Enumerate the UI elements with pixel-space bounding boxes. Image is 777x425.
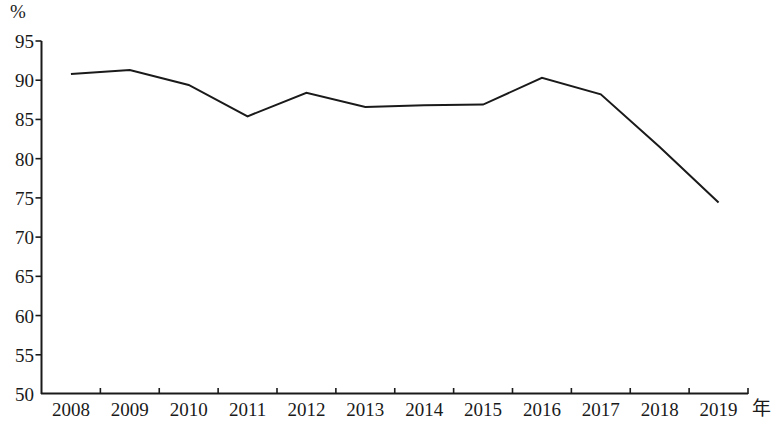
y-axis-tick-label: 60 [0,307,34,326]
y-axis-tick-label: 65 [0,267,34,286]
y-axis-tick-label: 85 [0,110,34,129]
x-axis-tick-label: 2014 [395,400,454,419]
x-axis-tick-label: 2010 [159,400,218,419]
x-axis-tick-label: 2019 [689,400,748,419]
y-axis-tick-label: 80 [0,150,34,169]
x-axis-tick-label: 2016 [513,400,572,419]
x-axis-tick-label: 2017 [571,400,630,419]
y-axis-tick-label: 55 [0,346,34,365]
x-axis-tick-label: 2018 [630,400,689,419]
x-axis-tick-label: 2013 [336,400,395,419]
y-axis-tick-label: 75 [0,189,34,208]
y-axis-tick-label: 95 [0,32,34,51]
x-axis-title: 年 [752,399,771,418]
y-axis-tick-label: 50 [0,385,34,404]
x-axis-tick-label: 2012 [277,400,336,419]
x-axis-tick-label: 2011 [218,400,277,419]
line-chart: % 50556065707580859095 20082009201020112… [0,0,777,425]
chart-plot-area [0,0,777,425]
y-axis-tick-label: 90 [0,71,34,90]
y-axis-tick-label: 70 [0,228,34,247]
x-axis-tick-label: 2009 [100,400,159,419]
data-series-line [71,70,719,203]
x-axis-tick-label: 2015 [454,400,513,419]
x-axis-tick-label: 2008 [42,400,101,419]
